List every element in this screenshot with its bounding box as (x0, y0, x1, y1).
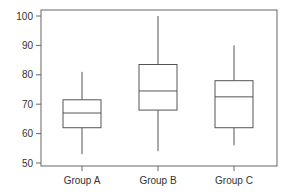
y-tick-label: 60 (22, 128, 34, 139)
y-tick-label: 100 (16, 11, 33, 22)
x-tick-label: Group B (139, 175, 177, 186)
box-group-a (63, 72, 101, 154)
iqr-box (139, 65, 177, 111)
y-tick-label: 70 (22, 99, 34, 110)
y-tick-label: 90 (22, 40, 34, 51)
y-tick-label: 80 (22, 69, 34, 80)
x-axis: Group AGroup BGroup C (64, 166, 253, 186)
iqr-box (63, 100, 101, 128)
box-group-c (215, 45, 253, 145)
y-tick-label: 50 (22, 158, 34, 169)
x-tick-label: Group A (64, 175, 101, 186)
y-axis: 5060708090100 (16, 11, 41, 169)
box-plot-chart: 5060708090100 Group AGroup BGroup C (0, 0, 292, 196)
x-tick-label: Group C (215, 175, 253, 186)
box-series (63, 16, 253, 154)
box-group-b (139, 16, 177, 151)
iqr-box (215, 81, 253, 128)
